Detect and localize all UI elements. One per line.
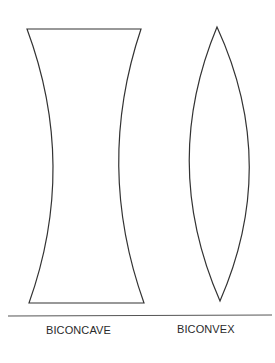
baseline-divider: [8, 315, 272, 316]
biconvex-label: BICONVEX: [177, 323, 235, 335]
biconcave-label: BICONCAVE: [46, 324, 111, 336]
biconcave-lens-shape: [27, 29, 144, 303]
biconvex-lens-shape: [189, 27, 249, 301]
lens-diagram: [0, 0, 275, 363]
